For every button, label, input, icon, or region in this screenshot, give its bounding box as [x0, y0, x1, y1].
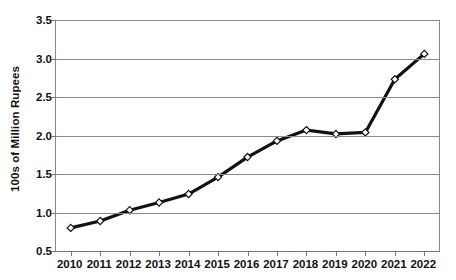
x-axis-tick-mark: [130, 251, 131, 256]
x-axis-tick-labels: 2010201120122013201420152016201720182019…: [55, 258, 438, 278]
x-axis-tick-label: 2014: [175, 258, 201, 270]
x-axis-tick-mark: [395, 251, 396, 256]
x-axis-tick-mark: [248, 251, 249, 256]
y-axis-tick-mark: [51, 20, 56, 21]
x-axis-tick-label: 2021: [381, 258, 407, 270]
x-axis-tick-label: 2020: [352, 258, 378, 270]
x-axis-tick-mark: [336, 251, 337, 256]
x-axis-tick-mark: [189, 251, 190, 256]
y-axis-tick-mark: [51, 136, 56, 137]
data-point-marker: [67, 224, 74, 231]
x-axis-tick-label: 2013: [145, 258, 171, 270]
gridline: [56, 174, 439, 175]
line-chart: 100s of Million Rupees 0.51.01.52.02.53.…: [0, 0, 456, 280]
x-axis-tick-label: 2011: [87, 258, 112, 270]
x-axis-tick-mark: [71, 251, 72, 256]
y-axis-tick-label: 1.5: [26, 168, 52, 180]
data-point-marker: [156, 199, 163, 206]
gridline: [56, 213, 439, 214]
y-axis-tick-label: 2.5: [26, 91, 52, 103]
y-axis-tick-label: 2.0: [26, 130, 52, 142]
x-axis-tick-label: 2018: [293, 258, 319, 270]
x-axis-tick-mark: [424, 251, 425, 256]
y-axis-title-label: 100s of Million Rupees: [9, 66, 21, 192]
y-axis-tick-label: 3.0: [26, 53, 52, 65]
x-axis-tick-mark: [100, 251, 101, 256]
y-axis-tick-mark: [51, 97, 56, 98]
x-axis-tick-mark: [306, 251, 307, 256]
x-axis-tick-mark: [159, 251, 160, 256]
gridline: [56, 59, 439, 60]
x-axis-tick-label: 2019: [322, 258, 348, 270]
series-line: [71, 54, 425, 228]
plot-area: [55, 20, 440, 252]
y-axis-tick-mark: [51, 251, 56, 252]
gridline: [56, 136, 439, 137]
x-axis-tick-label: 2022: [410, 258, 436, 270]
y-axis-tick-label: 3.5: [26, 14, 52, 26]
x-axis-tick-label: 2017: [263, 258, 289, 270]
x-axis-tick-label: 2015: [204, 258, 230, 270]
x-axis-tick-label: 2012: [116, 258, 142, 270]
x-axis-tick-label: 2016: [234, 258, 260, 270]
y-axis-tick-mark: [51, 174, 56, 175]
gridline: [56, 20, 439, 21]
y-axis-tick-label: 0.5: [26, 245, 52, 257]
y-axis-tick-mark: [51, 213, 56, 214]
x-axis-tick-mark: [365, 251, 366, 256]
y-axis-tick-mark: [51, 59, 56, 60]
y-axis-tick-labels: 0.51.01.52.02.53.03.5: [22, 0, 52, 280]
x-axis-tick-mark: [218, 251, 219, 256]
gridline: [56, 97, 439, 98]
x-axis-tick-label: 2010: [57, 258, 83, 270]
y-axis-tick-label: 1.0: [26, 207, 52, 219]
x-axis-tick-mark: [277, 251, 278, 256]
